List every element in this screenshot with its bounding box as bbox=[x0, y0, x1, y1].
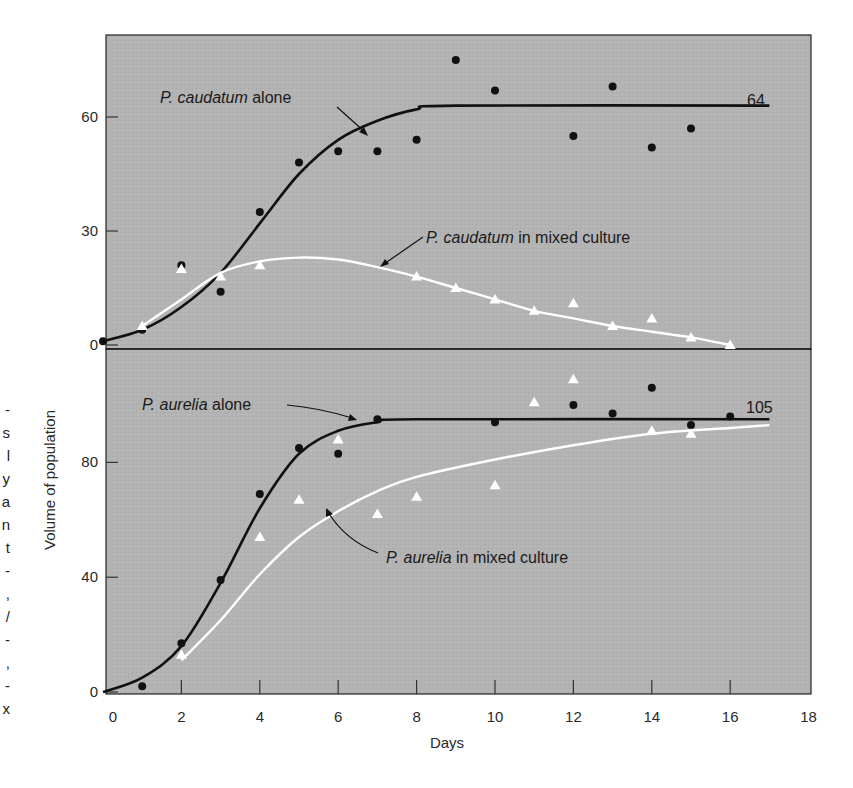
y-tick-label: 40 bbox=[81, 568, 98, 585]
x-tick-label: 4 bbox=[256, 708, 264, 725]
population-chart: 03060 04080 024681012141618 P. caudatum … bbox=[0, 0, 853, 788]
x-tick-label: 10 bbox=[487, 708, 504, 725]
circle-marker bbox=[256, 208, 264, 216]
y-tick-label: 60 bbox=[81, 108, 98, 125]
label-aurelia-mixed: P. aurelia in mixed culture bbox=[386, 549, 568, 566]
circle-marker bbox=[373, 415, 381, 423]
y-tick-label: 80 bbox=[81, 453, 98, 470]
circle-marker bbox=[609, 83, 617, 91]
circle-marker bbox=[648, 143, 656, 151]
label-caudatum-alone: P. caudatum alone bbox=[160, 89, 291, 106]
label-aurelia-alone: P. aurelia alone bbox=[142, 396, 251, 413]
circle-marker bbox=[334, 147, 342, 155]
circle-marker bbox=[726, 412, 734, 420]
y-axis-title: Volume of population bbox=[41, 410, 58, 550]
x-tick-label: 6 bbox=[334, 708, 342, 725]
y-tick-label: 30 bbox=[81, 222, 98, 239]
label-caudatum-mixed: P. caudatum in mixed culture bbox=[426, 229, 630, 246]
circle-marker bbox=[413, 136, 421, 144]
upper-panel-background bbox=[106, 35, 811, 349]
circle-marker bbox=[295, 159, 303, 167]
circle-marker bbox=[491, 86, 499, 94]
circle-marker bbox=[217, 288, 225, 296]
asymptote-label-105: 105 bbox=[746, 399, 773, 416]
circle-marker bbox=[295, 444, 303, 452]
x-tick-label: 8 bbox=[412, 708, 420, 725]
circle-marker bbox=[687, 421, 695, 429]
circle-marker bbox=[334, 450, 342, 458]
circle-marker bbox=[609, 410, 617, 418]
circle-marker bbox=[569, 401, 577, 409]
y-tick-label: 0 bbox=[90, 336, 98, 353]
x-tick-label: 2 bbox=[177, 708, 185, 725]
circle-marker bbox=[569, 132, 577, 140]
asymptote-label-64: 64 bbox=[747, 92, 765, 109]
x-axis-title: Days bbox=[430, 734, 464, 751]
circle-marker bbox=[138, 682, 146, 690]
x-tick-label: 18 bbox=[800, 708, 817, 725]
x-tick-label: 0 bbox=[109, 708, 117, 725]
circle-marker bbox=[687, 124, 695, 132]
x-tick-label: 12 bbox=[565, 708, 582, 725]
circle-marker bbox=[491, 418, 499, 426]
y-tick-label: 0 bbox=[90, 683, 98, 700]
x-tick-label: 16 bbox=[722, 708, 739, 725]
circle-marker bbox=[373, 147, 381, 155]
circle-marker bbox=[452, 56, 460, 64]
circle-marker bbox=[648, 384, 656, 392]
circle-marker bbox=[177, 639, 185, 647]
circle-marker bbox=[99, 337, 107, 345]
x-tick-label: 14 bbox=[643, 708, 660, 725]
circle-marker bbox=[217, 576, 225, 584]
circle-marker bbox=[256, 490, 264, 498]
